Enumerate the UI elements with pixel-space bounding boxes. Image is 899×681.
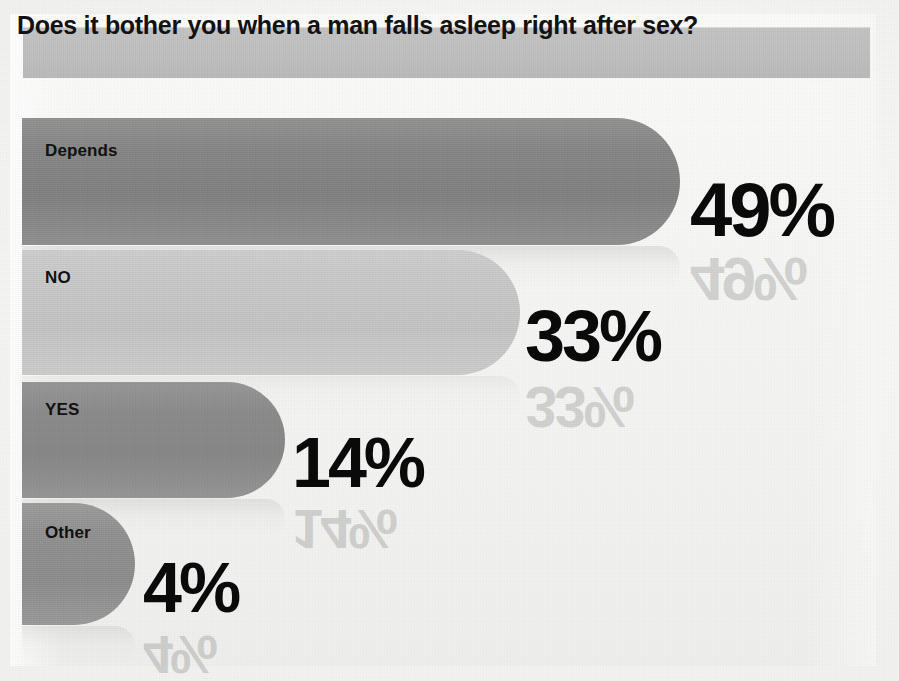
bar-value-depends: 49% bbox=[690, 172, 833, 248]
bar-value-other: 4% bbox=[143, 553, 238, 623]
bar-no[interactable] bbox=[22, 250, 520, 375]
poll-bar-chart: Does it bother you when a man falls asle… bbox=[0, 0, 899, 681]
bar-texture bbox=[22, 503, 135, 625]
bar-sheen bbox=[22, 250, 520, 375]
bar-value-no: 33% bbox=[525, 300, 660, 372]
bar-texture bbox=[22, 250, 520, 375]
bar-label-other: Other bbox=[45, 523, 91, 543]
bar-depends[interactable] bbox=[22, 118, 680, 245]
bar-sheen bbox=[22, 503, 135, 625]
value-reflection-no: 33% bbox=[525, 378, 632, 436]
bar-texture bbox=[22, 118, 680, 245]
value-reflection-yes: 14% bbox=[292, 501, 395, 557]
bar-sheen bbox=[22, 118, 680, 245]
value-reflection-other: 4% bbox=[143, 628, 215, 681]
bar-value-yes: 14% bbox=[292, 428, 423, 498]
bar-label-depends: Depends bbox=[45, 141, 118, 161]
bars-layer: 49% Depends 49% 33% NO 33% 14% bbox=[0, 0, 899, 681]
bar-label-yes: YES bbox=[45, 400, 79, 420]
bar-reflection-other bbox=[22, 626, 135, 666]
bar-label-no: NO bbox=[45, 268, 71, 288]
value-reflection-depends: 49% bbox=[690, 248, 805, 310]
bar-other[interactable] bbox=[22, 503, 135, 625]
